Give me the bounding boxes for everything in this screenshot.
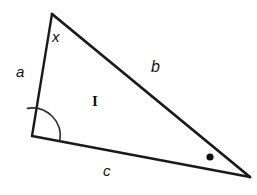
angle-dot-mark bbox=[206, 153, 213, 160]
side-label-a: a bbox=[16, 64, 24, 79]
side-a-line bbox=[32, 14, 52, 136]
side-b-line bbox=[52, 14, 250, 177]
angle-label-x: x bbox=[52, 29, 60, 44]
side-c-line bbox=[32, 136, 250, 177]
side-label-c: c bbox=[103, 163, 111, 178]
side-label-b: b bbox=[151, 59, 160, 75]
triangle-drawing bbox=[0, 0, 257, 195]
region-label-i: I bbox=[92, 94, 98, 109]
triangle-figure: x a b c I bbox=[0, 0, 257, 195]
